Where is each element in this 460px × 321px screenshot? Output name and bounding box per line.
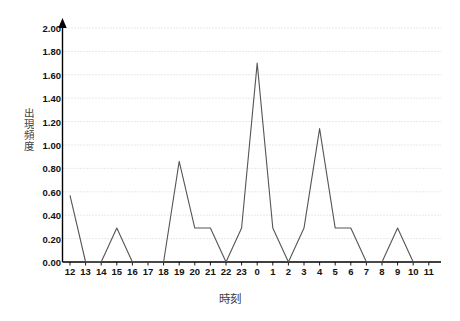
- x-tick-label: 5: [333, 266, 338, 277]
- grid-lines: [63, 28, 442, 239]
- x-tick-label: 20: [190, 266, 201, 277]
- x-tick-label: 17: [143, 266, 154, 277]
- x-tick-label: 1: [270, 266, 275, 277]
- x-tick-label: 13: [80, 266, 91, 277]
- x-tick-label: 8: [379, 266, 384, 277]
- x-tick-label: 7: [364, 266, 369, 277]
- x-tick-label: 18: [158, 266, 169, 277]
- x-tick-label: 23: [236, 266, 247, 277]
- x-tick-label: 4: [317, 266, 322, 277]
- x-tick-label: 14: [96, 266, 107, 277]
- x-tick-label: 9: [395, 266, 400, 277]
- x-tick-label: 10: [408, 266, 419, 277]
- x-tick-label: 11: [424, 266, 434, 277]
- x-tick-label: 15: [112, 266, 123, 277]
- x-tick-label: 16: [127, 266, 138, 277]
- x-tick-label: 6: [348, 266, 353, 277]
- x-tick-label: 19: [174, 266, 185, 277]
- x-tick-label: 12: [65, 266, 76, 277]
- x-axis-title: 時刻: [0, 290, 460, 306]
- x-tick-label: 21: [205, 266, 216, 277]
- chart-container: 出現頻度 0.000.200.400.600.801.001.201.401.6…: [0, 0, 460, 321]
- x-tick-label: 2: [286, 266, 291, 277]
- x-tick-label: 0: [255, 266, 260, 277]
- x-tick-label: 3: [301, 266, 306, 277]
- y-axis-arrow-icon: [58, 18, 66, 28]
- x-tick-label: 22: [221, 266, 232, 277]
- data-series-line: [70, 63, 429, 262]
